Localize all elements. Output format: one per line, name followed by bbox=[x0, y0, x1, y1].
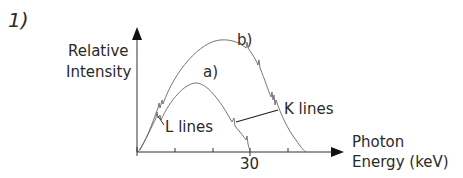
l-lines-pointer bbox=[158, 116, 164, 125]
spectrum-diagram bbox=[0, 0, 463, 178]
curve-a bbox=[138, 83, 251, 152]
k-lines-pointer bbox=[236, 110, 278, 122]
x-axis-arrow-icon bbox=[331, 147, 344, 157]
curve-b bbox=[140, 40, 306, 152]
y-axis-arrow-icon bbox=[132, 27, 142, 40]
